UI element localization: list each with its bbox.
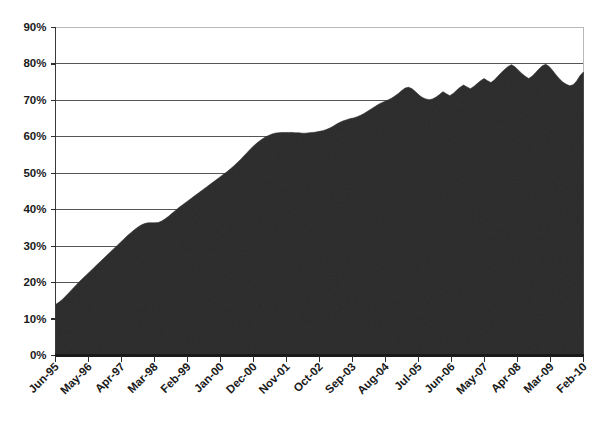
data-series-area [56, 28, 584, 356]
x-tick-label: Jun-95 [26, 360, 61, 395]
y-tick-label: 80% [23, 57, 46, 69]
y-tick-label: 60% [23, 130, 46, 142]
x-axis-tick-labels: Jun-95May-96Apr-97Mar-98Feb-99Jan-00Dec-… [26, 360, 589, 396]
y-tick-label: 70% [23, 94, 46, 106]
x-tick-label: Feb-99 [158, 360, 193, 395]
x-tick-label: Sep-03 [323, 360, 358, 395]
x-tick-label: May-96 [58, 360, 94, 396]
y-tick-label: 30% [23, 240, 46, 252]
y-tick-label: 20% [23, 276, 46, 288]
fill-texture [56, 28, 584, 356]
x-tick-label: Jun-06 [422, 360, 457, 395]
x-tick-label: Jan-00 [192, 360, 226, 394]
x-tick-label: Dec-00 [224, 360, 259, 395]
y-tick-label: 10% [23, 313, 46, 325]
chart-container: 90%80%70%60%50%40%30%20%10%0% Jun-95May-… [0, 0, 598, 426]
x-tick-label: May-07 [454, 360, 490, 396]
x-tick-label: Mar-09 [521, 360, 556, 395]
x-tick-label: Apr-08 [489, 360, 524, 395]
x-tick-label: Jul-05 [392, 360, 424, 392]
y-axis-tick-labels: 90%80%70%60%50%40%30%20%10%0% [23, 21, 46, 361]
x-tick-label: Aug-04 [355, 360, 391, 396]
y-tick-label: 40% [23, 203, 46, 215]
y-tick-label: 0% [30, 349, 47, 361]
x-tick-label: Oct-02 [291, 360, 325, 394]
y-tick-label: 50% [23, 167, 46, 179]
x-tick-label: Nov-01 [256, 360, 292, 396]
x-tick-label: Feb-10 [554, 360, 589, 395]
x-tick-label: Mar-98 [125, 360, 160, 395]
y-tick-label: 90% [23, 21, 46, 33]
x-tick-label: Apr-97 [93, 360, 127, 394]
area-chart: 90%80%70%60%50%40%30%20%10%0% Jun-95May-… [0, 0, 598, 426]
